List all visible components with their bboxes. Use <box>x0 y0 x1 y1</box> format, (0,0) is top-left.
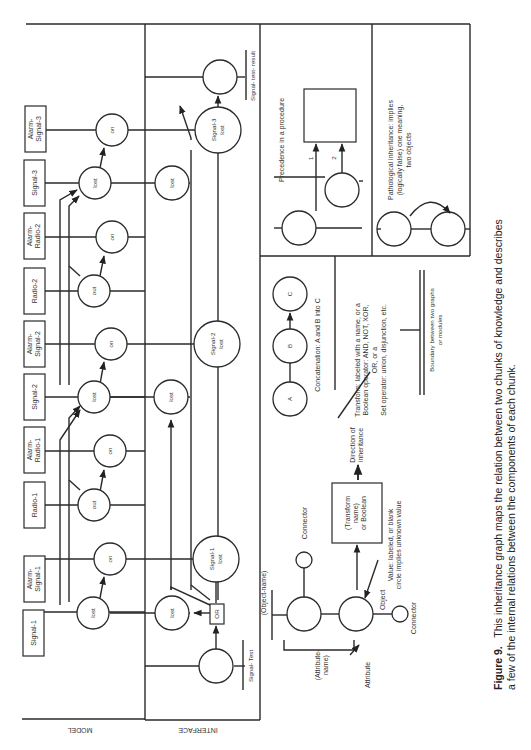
svg-text:on: on <box>108 233 115 240</box>
svg-text:or Boolean: or Boolean <box>360 496 367 530</box>
svg-text:Transform: labeled with a name: Transform: labeled with a name, or a <box>354 303 361 417</box>
model-box-signal-3: Signal-3 <box>24 160 45 206</box>
svg-text:B: B <box>286 344 293 348</box>
node-signal-2-lost: Signal-2 lost <box>194 321 240 367</box>
model-row-lines <box>44 77 204 666</box>
node-out-2: out <box>78 275 110 307</box>
legend-panel: 1 2 Precedence in a procedure Pathologic… <box>260 24 470 688</box>
svg-text:Alarm-: Alarm- <box>26 568 33 589</box>
svg-text:on: on <box>107 340 114 347</box>
attribute-label: Attribute <box>364 662 371 688</box>
model-box-alarm-radio-1: Alarm- Radio-1 <box>24 427 45 473</box>
svg-text:lost: lost <box>90 392 97 402</box>
precedence-arrow-2-label: 2 <box>330 156 337 160</box>
node-on-4: on <box>96 221 128 253</box>
svg-text:Signal-3: Signal-3 <box>35 116 43 142</box>
node-interface-lost-2: lost <box>154 380 188 414</box>
svg-text:Boundary between two graphs: Boundary between two graphs <box>428 288 435 372</box>
node-signal-test <box>199 649 233 683</box>
svg-text:Radio-1: Radio-1 <box>34 438 41 463</box>
node-signal-1-lost: Signal-1 lost <box>193 536 239 582</box>
model-box-signal-1: Signal-1 <box>23 610 44 656</box>
model-box-radio-2: Radio-2 <box>24 268 45 314</box>
connector-top-label: Connector <box>301 506 308 539</box>
model-feed-arrows <box>60 148 104 605</box>
svg-text:on: on <box>108 126 115 133</box>
or-box: OR <box>210 604 224 624</box>
node-on-3: on <box>95 328 127 360</box>
caption-label: Figure 9. <box>492 646 504 690</box>
pathological-example: Pathological inheritance: implies (logic… <box>377 100 470 246</box>
node-on-5: on <box>96 114 128 146</box>
svg-text:Signal-1: Signal-1 <box>30 620 38 646</box>
node-signal-3-lost: Signal-3 lost <box>195 107 241 153</box>
svg-text:Signal-3: Signal-3 <box>31 170 39 196</box>
svg-text:name): name) <box>322 655 330 675</box>
svg-text:Signal-2: Signal-2 <box>34 331 42 357</box>
svg-text:on: on <box>106 555 113 562</box>
svg-text:circle implies unknown value: circle implies unknown value <box>395 501 403 590</box>
transform-box: (Transform name) or Boolean <box>332 483 382 590</box>
svg-text:two objects: two objects <box>405 132 413 168</box>
model-box-alarm-signal-3: Alarm- Signal-3 <box>25 106 46 152</box>
node-lost-2: lost <box>78 381 110 413</box>
svg-text:lost: lost <box>218 125 225 135</box>
svg-text:Boolean operator: AND, NOT, XO: Boolean operator: AND, NOT, XOR, <box>362 305 370 416</box>
svg-text:Alarm-: Alarm- <box>26 439 33 460</box>
svg-text:or modules: or modules <box>436 315 443 346</box>
svg-text:(Transform: (Transform <box>344 496 352 530</box>
node-lost-1: lost <box>77 597 109 629</box>
svg-text:Signal-2: Signal-2 <box>31 384 39 410</box>
node-interface-lost-3: lost <box>155 166 189 200</box>
svg-text:out: out <box>90 286 97 295</box>
transform-note: Transform: labeled with a name, or a Boo… <box>338 303 388 418</box>
model-box-alarm-signal-2: Alarm- Signal-2 <box>24 321 45 367</box>
node-on-1: on <box>94 543 126 575</box>
interface-region-label: INTERFACE <box>178 727 218 734</box>
precedence-arrow-1-label: 1 <box>307 156 314 160</box>
model-region-label: MODEL <box>67 727 92 734</box>
svg-text:Signal-2: Signal-2 <box>209 332 216 355</box>
svg-text:inheritance: inheritance <box>357 428 364 462</box>
svg-text:lost: lost <box>89 608 96 618</box>
concatenation-example: A B C Concatenation: A and B into C <box>273 277 321 416</box>
svg-text:Figure 9. This inheritan: Figure 9. This inheritance graph maps th… <box>488 219 505 690</box>
node-lost-3: lost <box>79 167 111 199</box>
svg-text:on: on <box>106 447 113 454</box>
direction-of-inheritance: Direction of inheritance <box>349 427 364 480</box>
svg-text:Pathological inheritance: impl: Pathological inheritance: implies <box>387 100 395 200</box>
svg-text:Signal-1: Signal-1 <box>208 547 215 570</box>
svg-text:lost: lost <box>168 178 175 188</box>
model-box-signal-2: Signal-2 <box>24 374 45 420</box>
svg-text:name): name) <box>352 503 360 523</box>
svg-text:Set operator: union, disjuncti: Set operator: union, disjunction, etc. <box>380 304 388 416</box>
svg-text:Concatenation: A and B into C: Concatenation: A and B into C <box>314 298 321 391</box>
node-on-2: on <box>94 435 126 467</box>
precedence-label: Precedence in a procedure <box>278 98 286 182</box>
svg-text:OR: OR <box>213 609 220 619</box>
svg-text:Radio-1: Radio-1 <box>31 493 38 518</box>
figure-caption: Figure 9. This inheritance graph maps th… <box>488 219 517 690</box>
model-box-alarm-radio-2: Alarm- Radio-2 <box>24 213 45 259</box>
inheritance-graph-figure: MODEL INTERFACE Signal-1 Alarm- Signal-1… <box>0 0 531 750</box>
svg-text:Signal-3: Signal-3 <box>210 118 217 141</box>
node-interface-lost-1: lost <box>155 596 189 630</box>
svg-text:Alarm-: Alarm- <box>26 333 33 354</box>
svg-text:OR, or a: OR, or a <box>371 347 378 374</box>
svg-text:Radio-2: Radio-2 <box>34 224 41 249</box>
svg-text:Direction of: Direction of <box>349 427 356 462</box>
boundary-example: Boundary between two graphs or modules <box>400 270 443 395</box>
svg-text:Value: labeled, or blank: Value: labeled, or blank <box>387 508 394 581</box>
svg-text:(Attribute-: (Attribute- <box>314 649 322 680</box>
svg-text:lost: lost <box>91 178 98 188</box>
svg-text:lost: lost <box>167 392 174 402</box>
caption-line-1: This inheritance graph maps the relation… <box>492 219 504 638</box>
svg-text:Alarm-: Alarm- <box>26 225 33 246</box>
object-name-label: (Object-name) <box>260 571 268 616</box>
main-diagram: MODEL INTERFACE Signal-1 Alarm- Signal-1… <box>22 24 260 734</box>
model-box-radio-1: Radio-1 <box>24 482 45 528</box>
caption-line-2: a few of the internal relations between … <box>505 364 517 690</box>
signal-test-result-label: Signal- test- result <box>249 51 256 101</box>
svg-text:C: C <box>286 291 293 296</box>
svg-text:lost: lost <box>216 554 223 564</box>
